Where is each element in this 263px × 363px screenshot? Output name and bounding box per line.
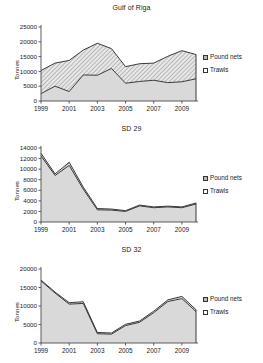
legend-swatch-hatched-icon [203, 297, 208, 302]
stacked-area-chart-figure: Gulf of RigaTonnes0500010000150002000025… [0, 0, 263, 363]
x-tick-label: 2009 [175, 105, 190, 112]
legend-label-trawls: Trawls [210, 188, 228, 194]
x-tick-label: 1999 [34, 226, 49, 233]
x-tick-label: 2001 [62, 347, 77, 354]
legend-swatch-gray-icon [203, 310, 208, 315]
y-tick-label: 5000 [23, 82, 37, 89]
chart-legend: Pound netsTrawls [203, 296, 242, 323]
legend-label-pound-nets: Pound nets [210, 54, 242, 60]
legend-swatch-gray-icon [203, 68, 208, 73]
chart-panel-2: SD 29Tonnes02000400060008000100001200014… [0, 121, 263, 242]
legend-item-trawls[interactable]: Trawls [203, 309, 242, 315]
chart-legend: Pound netsTrawls [203, 54, 242, 81]
y-tick-label: 14000 [20, 144, 38, 151]
y-tick-label: 10000 [20, 302, 38, 309]
legend-item-trawls[interactable]: Trawls [203, 67, 242, 73]
legend-label-pound-nets: Pound nets [210, 175, 242, 181]
x-tick-label: 2007 [147, 347, 162, 354]
x-tick-label: 2009 [175, 347, 190, 354]
y-tick-label: 20000 [20, 265, 38, 272]
x-tick-label: 1999 [34, 347, 49, 354]
x-tick-label: 2003 [90, 226, 105, 233]
y-tick-label: 15000 [20, 53, 38, 60]
y-tick-label: 15000 [20, 284, 38, 291]
legend-label-trawls: Trawls [210, 67, 228, 73]
legend-swatch-hatched-icon [203, 55, 208, 60]
x-tick-label: 2005 [118, 347, 133, 354]
legend-label-pound-nets: Pound nets [210, 296, 242, 302]
x-tick-label: 2001 [62, 105, 77, 112]
chart-legend: Pound netsTrawls [203, 175, 242, 202]
legend-item-trawls[interactable]: Trawls [203, 188, 242, 194]
x-tick-label: 2007 [147, 105, 162, 112]
y-tick-label: 0 [34, 218, 38, 225]
x-tick-label: 2009 [175, 226, 190, 233]
x-tick-label: 2003 [90, 347, 105, 354]
chart-panel-1: Gulf of RigaTonnes0500010000150002000025… [0, 0, 263, 121]
legend-swatch-gray-icon [203, 189, 208, 194]
x-tick-label: 2005 [118, 105, 133, 112]
y-tick-label: 10000 [20, 165, 38, 172]
legend-swatch-hatched-icon [203, 176, 208, 181]
x-tick-label: 2007 [147, 226, 162, 233]
y-tick-label: 12000 [20, 155, 38, 162]
series-area-trawls [41, 281, 196, 343]
chart-panel-3: SD 32Tonnes05000100001500020000199920012… [0, 242, 263, 363]
legend-item-pound-nets[interactable]: Pound nets [203, 296, 242, 302]
y-tick-label: 8000 [23, 176, 37, 183]
y-tick-label: 25000 [20, 23, 38, 30]
y-tick-label: 0 [34, 339, 38, 346]
y-tick-label: 20000 [20, 38, 38, 45]
x-tick-label: 1999 [34, 105, 49, 112]
y-tick-label: 10000 [20, 68, 38, 75]
y-tick-label: 5000 [23, 321, 37, 328]
x-tick-label: 2003 [90, 105, 105, 112]
y-tick-label: 6000 [23, 186, 37, 193]
y-tick-label: 0 [34, 97, 38, 104]
legend-label-trawls: Trawls [210, 309, 228, 315]
x-tick-label: 2001 [62, 226, 77, 233]
y-tick-label: 4000 [23, 197, 37, 204]
x-tick-label: 2005 [118, 226, 133, 233]
y-tick-label: 2000 [23, 208, 37, 215]
legend-item-pound-nets[interactable]: Pound nets [203, 54, 242, 60]
legend-item-pound-nets[interactable]: Pound nets [203, 175, 242, 181]
